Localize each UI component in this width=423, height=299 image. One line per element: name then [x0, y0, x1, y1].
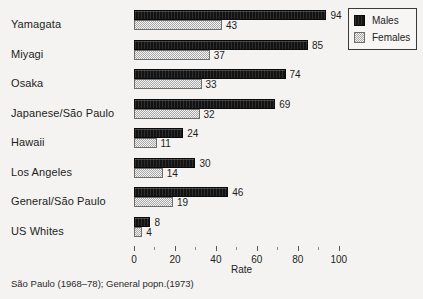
plot-area: 944385377433693224113014461984 [134, 0, 349, 246]
bar-value-label: 32 [204, 110, 215, 120]
axis-tick-minor [195, 247, 196, 250]
axis-tick-label: 60 [251, 255, 262, 265]
bar-value-label: 8 [154, 218, 160, 228]
category-label: Osaka [11, 78, 43, 89]
category-label: Japanese/São Paulo [11, 108, 114, 119]
bar-males-hawaii [134, 128, 183, 138]
axis-tick-major [257, 246, 258, 251]
category-label: Hawaii [11, 137, 45, 148]
legend-label-males: Males [372, 15, 399, 26]
bar-value-label: 69 [279, 100, 290, 110]
bar-males-los-angeles [134, 158, 195, 168]
axis-tick-label: 100 [330, 255, 347, 265]
legend: Males Females [348, 8, 417, 50]
bar-value-label: 11 [161, 139, 171, 149]
legend-label-females: Females [372, 32, 410, 43]
bar-females-general-s-o-paulo [134, 197, 173, 207]
bar-females-osaka [134, 79, 202, 89]
axis-tick-minor [154, 247, 155, 250]
axis-tick-major [175, 246, 176, 251]
axis-tick-label: 80 [292, 255, 303, 265]
bar-females-japanese-s-o-paulo [134, 109, 200, 119]
category-label: US Whites [11, 226, 64, 237]
bar-value-label: 14 [167, 169, 178, 179]
axis-tick-major [298, 246, 299, 251]
bar-females-los-angeles [134, 168, 163, 178]
bar-value-label: 43 [226, 21, 237, 31]
bar-males-yamagata [134, 10, 326, 20]
bar-males-japanese-s-o-paulo [134, 99, 275, 109]
bar-females-yamagata [134, 20, 222, 30]
bar-value-label: 74 [290, 70, 301, 80]
axis-tick-minor [318, 247, 319, 250]
legend-swatch-males-icon [354, 15, 365, 26]
axis-tick-minor [236, 247, 237, 250]
axis-tick-major [134, 246, 135, 251]
category-label: Yamagata [11, 19, 61, 30]
bar-value-label: 37 [214, 51, 225, 61]
bar-value-label: 19 [177, 198, 188, 208]
bar-value-label: 46 [232, 188, 243, 198]
axis-title-rate: Rate [134, 265, 349, 275]
axis-tick-major [339, 246, 340, 251]
bar-males-miyagi [134, 40, 308, 50]
bar-males-osaka [134, 69, 286, 79]
axis-tick-minor [277, 247, 278, 250]
legend-swatch-females-icon [354, 32, 365, 43]
axis-tick-label: 20 [169, 255, 180, 265]
axis-tick-label: 40 [210, 255, 221, 265]
axis-tick-major [216, 246, 217, 251]
bar-chart: YamagataMiyagiOsakaJapanese/São PauloHaw… [0, 0, 423, 299]
bar-males-general-s-o-paulo [134, 187, 228, 197]
bar-value-label: 33 [206, 80, 217, 90]
bar-females-us-whites [134, 227, 142, 237]
category-label: Los Angeles [11, 167, 72, 178]
bar-value-label: 4 [146, 228, 152, 238]
bar-value-label: 30 [199, 159, 210, 169]
category-label: Miyagi [11, 49, 43, 60]
bar-value-label: 24 [187, 129, 198, 139]
bar-females-hawaii [134, 138, 157, 148]
bar-value-label: 94 [330, 11, 341, 21]
chart-caption: São Paulo (1968–78); General popn.(1973) [11, 279, 194, 289]
bar-females-miyagi [134, 50, 210, 60]
bar-males-us-whites [134, 217, 150, 227]
category-label: General/São Paulo [11, 196, 106, 207]
bar-value-label: 85 [312, 41, 323, 51]
axis-tick-label: 0 [131, 255, 137, 265]
